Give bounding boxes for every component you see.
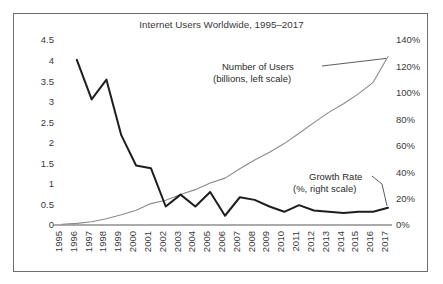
x-tick-label-2009: 2009 — [260, 231, 271, 252]
x-tick-label-2015: 2015 — [349, 231, 360, 252]
right-tick-label: 60% — [396, 140, 416, 151]
right-tick-label: 80% — [396, 114, 416, 125]
x-tick-label-2007: 2007 — [231, 231, 242, 252]
x-tick-label-2005: 2005 — [201, 231, 212, 252]
x-tick-label-2012: 2012 — [305, 231, 316, 252]
x-tick-label-2016: 2016 — [364, 231, 375, 252]
left-tick-label: 3.5 — [41, 76, 54, 87]
left-axis-ticks: 00.511.522.533.544.5 — [41, 34, 54, 230]
left-tick-label: 2.5 — [41, 117, 54, 128]
annotation-users-line1: Number of Users — [222, 61, 294, 72]
chart-title: Internet Users Worldwide, 1995–2017 — [139, 19, 303, 30]
x-tick-label-1998: 1998 — [97, 231, 108, 252]
x-tick-label-2006: 2006 — [216, 231, 227, 252]
annotation-growth-rate: Growth Rate (%, right scale) — [293, 171, 387, 206]
left-tick-label: 2 — [49, 137, 54, 148]
left-tick-label: 4 — [49, 55, 54, 66]
x-tick-label-2014: 2014 — [335, 231, 346, 252]
annotation-number-of-users: Number of Users (billions, left scale) — [213, 58, 386, 84]
left-tick-label: 1.5 — [41, 158, 54, 169]
right-axis-ticks: 0%20%40%60%80%100%120%140% — [396, 34, 421, 230]
right-tick-label: 40% — [396, 167, 416, 178]
right-tick-label: 100% — [396, 87, 421, 98]
left-tick-label: 3 — [49, 96, 54, 107]
annotation-growth-leader-line — [372, 176, 387, 206]
x-axis-ticks: 1995199619971998199920002001200220032004… — [53, 231, 390, 252]
right-tick-label: 140% — [396, 34, 421, 45]
left-tick-label: 0 — [49, 219, 54, 230]
right-tick-label: 120% — [396, 61, 421, 72]
x-tick-label-1999: 1999 — [112, 231, 123, 252]
x-tick-label-2003: 2003 — [172, 231, 183, 252]
chart-figure: Internet Users Worldwide, 1995–2017 00.5… — [0, 0, 443, 284]
x-tick-label-2008: 2008 — [246, 231, 257, 252]
left-tick-label: 4.5 — [41, 34, 54, 45]
right-tick-label: 0% — [396, 219, 410, 230]
x-tick-label-1995: 1995 — [53, 231, 64, 252]
x-tick-label-2000: 2000 — [127, 231, 138, 252]
left-tick-label: 0.5 — [41, 199, 54, 210]
x-tick-label-2013: 2013 — [320, 231, 331, 252]
right-tick-label: 20% — [396, 193, 416, 204]
x-tick-label-2002: 2002 — [157, 231, 168, 252]
chart-canvas: Internet Users Worldwide, 1995–2017 00.5… — [0, 0, 443, 284]
x-tick-label-1997: 1997 — [83, 231, 94, 252]
left-tick-label: 1 — [49, 178, 54, 189]
annotation-users-leader-line — [322, 58, 386, 66]
annotation-growth-line1: Growth Rate — [309, 171, 362, 182]
x-tick-label-1996: 1996 — [68, 231, 79, 252]
x-tick-label-2011: 2011 — [290, 231, 301, 251]
annotation-users-line2: (billions, left scale) — [213, 73, 291, 84]
x-tick-label-2001: 2001 — [142, 231, 153, 252]
x-tick-label-2017: 2017 — [379, 231, 390, 252]
annotation-growth-line2: (%, right scale) — [293, 183, 356, 194]
x-tick-label-2010: 2010 — [275, 231, 286, 252]
x-tick-label-2004: 2004 — [186, 231, 197, 252]
